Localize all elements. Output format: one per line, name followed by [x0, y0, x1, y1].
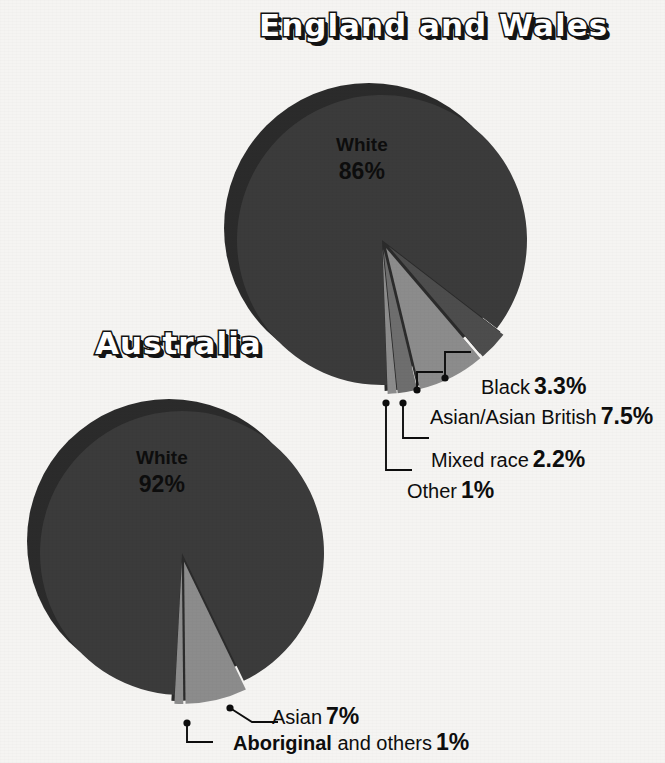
callout-label-black: Black3.3% [481, 373, 586, 400]
leader-line-england-other [386, 403, 412, 470]
callout-mixed-race-value: 2.2% [533, 446, 585, 472]
leader-dot-england-black [441, 374, 448, 381]
callout-black-value: 3.3% [534, 373, 586, 399]
leader-line-australia-aboriginal [187, 723, 213, 742]
chart-title-australia: Australia [95, 325, 262, 361]
callout-label-au-aboriginal: Aboriginal and others1% [233, 729, 469, 756]
callout-label-asian-asian-british: Asian/Asian British7.5% [430, 403, 653, 430]
callout-label-au-asian: Asian7% [272, 703, 359, 730]
leader-line-australia-asian [230, 708, 278, 722]
leader-line-england-mixed_race [403, 403, 429, 438]
callout-au-aboriginal-suffix: and others [332, 732, 432, 754]
center-label-england-value: 86% [336, 157, 388, 186]
callout-mixed-race-name: Mixed race [431, 449, 529, 471]
callout-au-aboriginal-value: 1% [436, 729, 469, 755]
leader-dot-england-other [382, 399, 389, 406]
callout-au-asian-name: Asian [272, 706, 322, 728]
callout-other-name: Other [407, 480, 457, 502]
callout-asian-british-name: Asian/Asian British [430, 406, 597, 428]
callout-label-mixed-race: Mixed race2.2% [431, 446, 585, 473]
center-label-england: White 86% [336, 133, 388, 187]
chart-title-england-and-wales: England and Wales [259, 7, 608, 43]
callout-asian-british-value: 7.5% [601, 403, 653, 429]
callout-au-aboriginal-name: Aboriginal [233, 732, 332, 754]
leader-dot-australia-aboriginal [183, 719, 190, 726]
leader-dot-australia-asian [226, 704, 233, 711]
chart-title-australia-text: Australia [95, 325, 262, 361]
leader-dot-england-mixed_race [399, 399, 406, 406]
callout-au-asian-value: 7% [326, 703, 359, 729]
callout-other-value: 1% [461, 477, 494, 503]
center-label-australia: White 92% [136, 446, 188, 500]
callout-black-name: Black [481, 376, 530, 398]
leader-dot-england-asian_british [413, 386, 420, 393]
chart-title-england-text: England and Wales [259, 7, 608, 43]
center-label-england-name: White [336, 133, 388, 157]
callout-label-other: Other1% [407, 477, 494, 504]
center-label-australia-value: 92% [136, 470, 188, 499]
center-label-australia-name: White [136, 446, 188, 470]
